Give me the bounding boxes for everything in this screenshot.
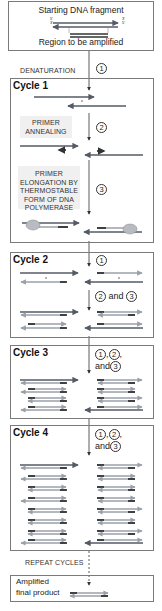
step-2-icon: 2 <box>109 429 120 440</box>
step-2-icon: 2 <box>96 122 107 133</box>
step-1-icon: 1 <box>95 349 106 360</box>
denaturation-step: 1 <box>96 63 107 74</box>
elongation-step: 3 <box>96 184 107 195</box>
cycle4-box <box>10 425 154 551</box>
cycle2-title: Cycle 2 <box>13 254 48 265</box>
cycle3-title: Cycle 3 <box>13 347 48 358</box>
and-text: and <box>95 441 110 451</box>
cycle1-box <box>10 78 154 243</box>
cycle1-title: Cycle 1 <box>13 80 48 91</box>
cycle4-steps: 1,2, and3 <box>95 428 122 452</box>
cycle2-step1: 1 <box>96 255 107 266</box>
step-3-icon: 3 <box>126 291 137 302</box>
cycle3-steps: 1,2, and3 <box>95 348 122 372</box>
starting-dna-duplex <box>53 23 118 37</box>
denaturation-label: DENATURATION <box>20 67 75 76</box>
step-1-icon: 1 <box>95 429 106 440</box>
step-1-icon: 1 <box>96 63 107 74</box>
primer-annealing-label: PRIMER ANNEALING <box>20 116 72 138</box>
and-text: and <box>109 291 124 301</box>
annealing-step: 2 <box>96 122 107 133</box>
step-1-icon: 1 <box>96 255 107 266</box>
and-text: and <box>95 361 110 371</box>
step-2-icon: 2 <box>95 291 106 302</box>
primer-elongation-label: PRIMER ELONGATION BY THERMOSTABLE FORM O… <box>18 166 80 209</box>
cycle2-steps-2-3: 2 and 3 <box>95 291 137 302</box>
step-3-icon: 3 <box>96 184 107 195</box>
step-2-icon: 2 <box>109 349 120 360</box>
step-3-icon: 3 <box>110 441 121 452</box>
step-3-icon: 3 <box>110 361 121 372</box>
final-product-line2: final product <box>16 588 60 597</box>
cycle4-title: Cycle 4 <box>13 427 48 438</box>
repeat-cycles-label: REPEAT CYCLES <box>25 559 84 568</box>
final-product-line1: Amplified <box>16 577 49 586</box>
